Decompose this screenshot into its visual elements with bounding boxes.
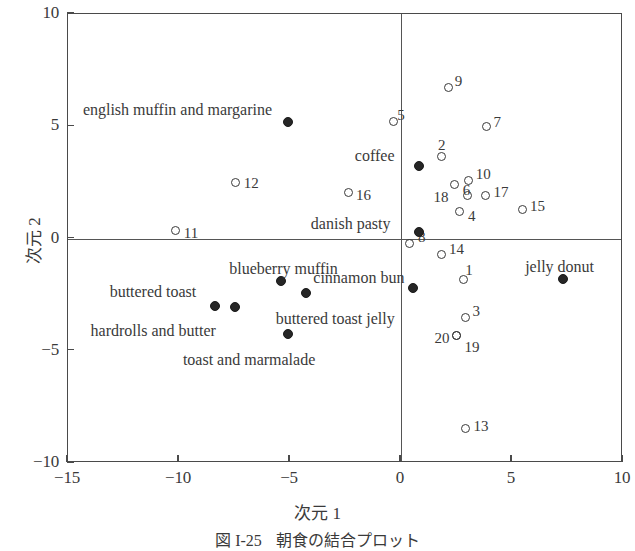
data-point-number-label: 12 [244, 176, 259, 191]
data-point-filled[interactable] [283, 117, 293, 127]
x-axis-tick [399, 455, 400, 462]
data-point-open[interactable] [461, 313, 470, 322]
data-point-open[interactable] [482, 122, 491, 131]
data-point-name-label: danish pasty [311, 216, 391, 232]
caption-number: 図 I-25 [215, 532, 262, 549]
data-point-number-label: 17 [493, 185, 508, 200]
data-point-number-label: 3 [472, 304, 480, 319]
data-point-number-label: 18 [433, 190, 448, 205]
y-axis-tick-label: −10 [9, 452, 59, 472]
data-point-number-label: 2 [438, 138, 446, 153]
x-axis-tick [621, 455, 622, 462]
y-axis-tick-label: 0 [9, 228, 59, 248]
data-point-number-label: 10 [476, 167, 491, 182]
data-point-name-label: toast and marmalade [183, 352, 315, 368]
caption-text: 朝食の結合プロット [276, 532, 420, 549]
x-axis-tick-label: −10 [165, 468, 191, 488]
data-point-number-label: 16 [356, 188, 371, 203]
data-point-filled[interactable] [230, 302, 240, 312]
y-axis-tick-label: 5 [9, 115, 59, 135]
data-point-open[interactable] [437, 250, 446, 259]
data-point-open[interactable] [452, 331, 461, 340]
data-point-name-label: jelly donut [525, 259, 594, 275]
data-point-name-label: hardrolls and butter [91, 323, 216, 339]
data-point-name-label: coffee [355, 148, 395, 164]
data-point-number-label: 6 [463, 183, 471, 198]
data-point-filled[interactable] [283, 329, 293, 339]
data-point-filled[interactable] [301, 288, 311, 298]
x-axis-tick-label: 10 [614, 468, 631, 488]
vertical-zero-axis [401, 14, 402, 461]
data-point-open[interactable] [461, 424, 470, 433]
x-axis-title: 次元 1 [0, 499, 635, 524]
data-point-number-label: 20 [435, 331, 450, 346]
data-point-name-label: buttered toast [110, 284, 197, 300]
y-axis-tick-label: −5 [9, 340, 59, 360]
x-axis-tick-label: 5 [507, 468, 515, 488]
horizontal-zero-axis [68, 239, 621, 240]
y-axis-tick [67, 349, 74, 350]
data-point-number-label: 13 [473, 419, 488, 434]
data-point-name-label: english muffin and margarine [83, 102, 272, 118]
data-point-number-label: 9 [455, 74, 463, 89]
data-point-open[interactable] [437, 152, 446, 161]
y-axis-tick [67, 125, 74, 126]
data-point-filled[interactable] [210, 301, 220, 311]
y-axis-tick [67, 12, 74, 13]
data-point-number-label: 4 [468, 209, 476, 224]
data-point-number-label: 19 [465, 340, 480, 355]
y-axis-tick [67, 461, 74, 462]
scatter-plot-area [67, 13, 622, 462]
x-axis-tick [177, 455, 178, 462]
x-axis-tick [288, 455, 289, 462]
figure-caption: 図 I-25 朝食の結合プロット [0, 527, 635, 551]
data-point-name-label: cinnamon bun [313, 270, 404, 286]
y-axis-tick-label: 10 [9, 3, 59, 23]
data-point-number-label: 1 [465, 263, 473, 278]
x-axis-tick [510, 455, 511, 462]
data-point-number-label: 5 [397, 108, 405, 123]
data-point-number-label: 15 [530, 199, 545, 214]
data-point-filled[interactable] [414, 161, 424, 171]
data-point-open[interactable] [444, 83, 453, 92]
y-axis-tick [67, 237, 74, 238]
data-point-open[interactable] [518, 205, 527, 214]
data-point-number-label: 11 [184, 226, 198, 241]
data-point-name-label: buttered toast jelly [276, 311, 395, 327]
data-point-number-label: 7 [494, 115, 502, 130]
data-point-filled[interactable] [414, 227, 424, 237]
x-axis-tick-label: −5 [280, 468, 298, 488]
x-axis-tick-label: 0 [396, 468, 404, 488]
data-point-number-label: 14 [449, 242, 464, 257]
